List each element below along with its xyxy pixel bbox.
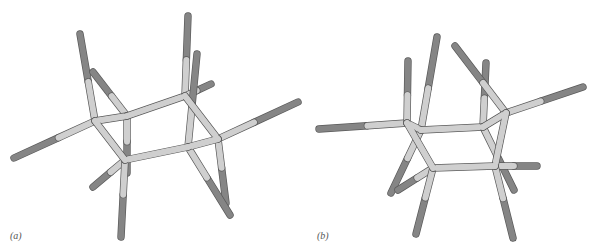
substituent-bond-tip [121,195,123,237]
substituent-bond-base [218,122,254,139]
substituent-bond-base [59,121,95,138]
ring-bond-fill [95,121,125,160]
ring-bond-fill [421,127,483,130]
substituent-bond-tip [93,72,112,96]
substituent-bond-tip [80,34,88,82]
substituent-bond-base [123,160,125,195]
substituent-bond-base [88,82,95,121]
substituent-bond-tip [455,46,483,83]
substituent-bond-base [421,88,428,130]
molecule-panel-a [14,16,298,237]
substituent-bond-base [185,60,186,96]
substituent-bond-base [188,147,207,178]
ring-bond-fill [125,147,188,160]
substituent-bond-tip [254,102,298,122]
molecule-figure [0,0,594,249]
substituent-bond-tip [186,16,188,60]
panel-label-a: (a) [10,230,22,241]
substituent-bond-tip [319,126,367,129]
ring-bond-fill [433,166,495,168]
substituent-bond-base [218,139,222,168]
substituent-bond-tip [14,138,59,158]
substituent-bond-base [188,105,192,147]
substituent-bond-base [506,101,541,113]
molecule-panel-b [319,37,583,238]
substituent-bond-tip [407,61,408,95]
substituent-bond-tip [541,87,583,101]
ring-bond-fill [127,96,185,116]
panel-label-b: (b) [317,230,329,241]
substituent-bond-base [367,123,407,126]
